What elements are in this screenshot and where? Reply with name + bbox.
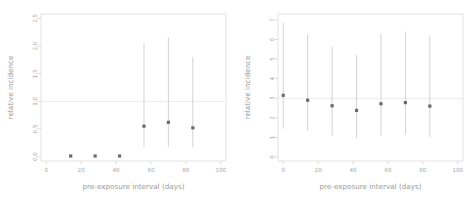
x-tick-label: 80 [419,167,427,173]
y-tick-label: 3 [269,96,275,100]
y-tick-label: 6 [269,37,275,41]
plot-frame [278,14,463,161]
data-point [282,94,285,97]
x-tick-label: 100 [452,167,463,173]
y-tick-label: 0.5 [32,124,38,133]
y-tick-label: 1.0 [32,96,38,105]
scatter-plot-right: 01234567020406080100pre-exposure interva… [237,0,473,203]
x-tick-label: 60 [384,167,392,173]
data-point [306,99,309,102]
x-tick-label: 40 [112,167,120,173]
x-tick-label: 60 [147,167,155,173]
x-tick-label: 100 [215,167,226,173]
y-tick-label: 2 [269,116,275,120]
scatter-plot-left: 0.00.51.01.52.02.5020406080100pre-exposu… [0,0,236,203]
data-point [191,126,194,129]
x-axis-title: pre-exposure interval (days) [83,182,185,191]
x-tick-label: 40 [349,167,357,173]
x-tick-label: 0 [44,167,48,173]
chart-panel-left: 0.00.51.01.52.02.5020406080100pre-exposu… [0,0,236,203]
x-axis-title: pre-exposure interval (days) [320,182,422,191]
chart-panel-right: 01234567020406080100pre-exposure interva… [237,0,473,203]
y-tick-label: 0.0 [32,152,38,161]
y-tick-label: 1.5 [32,69,38,78]
data-point [118,154,121,157]
y-axis-title: relative incidence [243,55,252,119]
y-tick-label: 4 [269,76,275,80]
y-tick-label: 2.5 [32,14,38,23]
plot-frame [41,14,226,161]
data-point [69,154,72,157]
x-tick-label: 20 [78,167,86,173]
data-point [428,105,431,108]
data-point [379,102,382,105]
y-tick-label: 0 [269,155,275,159]
y-tick-label: 2.0 [32,41,38,50]
data-point [142,125,145,128]
x-tick-label: 0 [281,167,285,173]
data-point [94,154,97,157]
figure-container: 0.00.51.01.52.02.5020406080100pre-exposu… [0,0,473,203]
data-point [331,104,334,107]
data-point [167,121,170,124]
y-tick-label: 1 [269,135,275,139]
data-point [404,101,407,104]
y-tick-label: 7 [269,18,275,22]
x-tick-label: 80 [182,167,190,173]
x-tick-label: 20 [315,167,323,173]
y-axis-title: relative incidence [6,55,15,119]
data-point [355,109,358,112]
y-tick-label: 5 [269,57,275,61]
